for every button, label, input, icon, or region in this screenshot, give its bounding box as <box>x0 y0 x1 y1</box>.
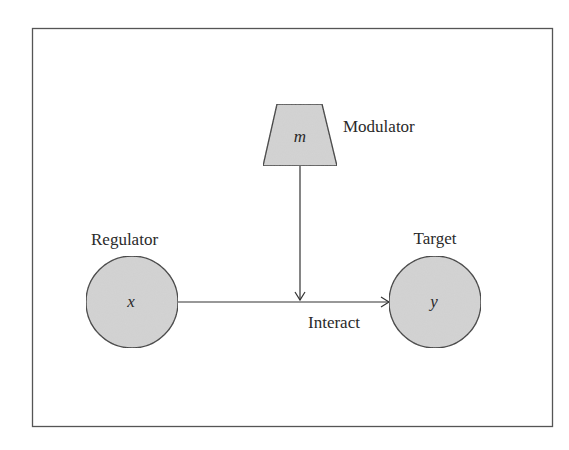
regulator-label: Regulator <box>91 230 158 249</box>
diagram-frame <box>33 29 553 427</box>
regulator-node: x <box>86 256 178 348</box>
target-symbol: y <box>428 292 438 311</box>
diagram-canvas: m Modulator Interact Regulator x Target … <box>0 0 569 450</box>
target-node: y <box>389 256 481 348</box>
modulator-symbol: m <box>294 127 306 146</box>
target-label: Target <box>414 229 457 248</box>
regulator-symbol: x <box>126 292 135 311</box>
modulator-label: Modulator <box>343 117 415 136</box>
interaction-label: Interact <box>308 313 360 332</box>
